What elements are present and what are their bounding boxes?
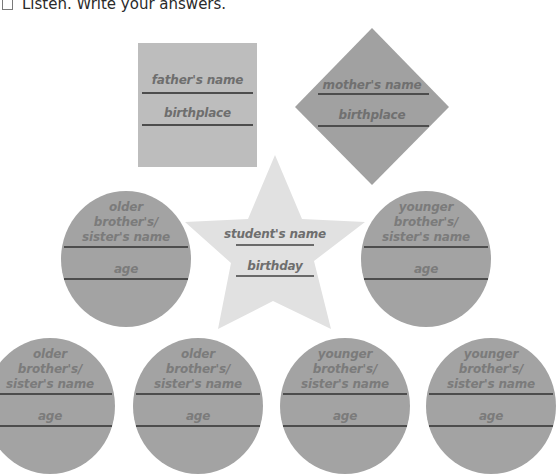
sibling-age-answer-line[interactable] (283, 425, 407, 427)
student-name-answer-line[interactable] (236, 244, 314, 246)
sibling-label-line3: sister's name (361, 230, 491, 245)
sibling-label-line3: sister's name (426, 377, 556, 392)
mother-birthplace-label: birthplace (295, 108, 449, 122)
sibling-label-line3: sister's name (133, 377, 263, 392)
student-name-label: student's name (185, 227, 365, 241)
sibling-label-line2: brother's/ (61, 215, 191, 230)
father-birthplace-label: birthplace (138, 106, 257, 120)
sibling-age-answer-line[interactable] (364, 278, 488, 280)
sibling-age-label: age (0, 409, 115, 424)
sibling-label-line3: sister's name (280, 377, 410, 392)
sibling-name-answer-line[interactable] (136, 393, 260, 395)
sibling-age-answer-line[interactable] (136, 425, 260, 427)
father-card: father's name birthplace (138, 43, 257, 167)
mother-name-answer-line[interactable] (318, 93, 429, 95)
sibling-label-line1: older (133, 347, 263, 362)
sibling-name-answer-line[interactable] (283, 393, 407, 395)
sibling-label-line1: younger (426, 347, 556, 362)
father-name-label: father's name (138, 73, 257, 87)
sibling-age-label: age (426, 409, 556, 424)
sibling-label-line1: older (0, 347, 115, 362)
sibling-age-answer-line[interactable] (64, 278, 188, 280)
sibling-label-line2: brother's/ (426, 362, 556, 377)
sibling-card-older-1: older brother's/ sister's name age (61, 191, 191, 327)
sibling-age-label: age (280, 409, 410, 424)
instruction-text: Listen. Write your answers. (22, 0, 226, 13)
student-birthday-label: birthday (185, 259, 365, 273)
sibling-card-younger-1: younger brother's/ sister's name age (361, 191, 491, 327)
sibling-card-younger-3: younger brother's/ sister's name age (426, 338, 556, 474)
sibling-label-line2: brother's/ (133, 362, 263, 377)
sibling-name-answer-line[interactable] (429, 393, 553, 395)
student-birthday-answer-line[interactable] (236, 275, 314, 277)
sibling-label-line3: sister's name (0, 377, 115, 392)
sibling-age-label: age (361, 262, 491, 277)
sibling-age-answer-line[interactable] (0, 425, 112, 427)
sibling-label-line2: brother's/ (0, 362, 115, 377)
sibling-age-label: age (61, 262, 191, 277)
sibling-card-older-3: older brother's/ sister's name age (133, 338, 263, 474)
sibling-age-answer-line[interactable] (429, 425, 553, 427)
sibling-label-line1: younger (361, 200, 491, 215)
mother-name-label: mother's name (295, 78, 449, 92)
father-birthplace-answer-line[interactable] (142, 124, 253, 126)
father-name-answer-line[interactable] (142, 92, 253, 94)
sibling-card-older-2: older brother's/ sister's name age (0, 338, 115, 474)
sibling-label-line1: older (61, 200, 191, 215)
sibling-age-label: age (133, 409, 263, 424)
sibling-name-answer-line[interactable] (64, 246, 188, 248)
checkbox-icon[interactable] (2, 0, 13, 10)
mother-birthplace-answer-line[interactable] (318, 125, 429, 127)
sibling-label-line2: brother's/ (361, 215, 491, 230)
star-shape (185, 155, 365, 331)
sibling-name-answer-line[interactable] (364, 246, 488, 248)
sibling-label-line3: sister's name (61, 230, 191, 245)
sibling-name-answer-line[interactable] (0, 393, 112, 395)
sibling-label-line1: younger (280, 347, 410, 362)
sibling-card-younger-2: younger brother's/ sister's name age (280, 338, 410, 474)
student-card: student's name birthday (185, 155, 365, 331)
instruction: Listen. Write your answers. (2, 0, 226, 14)
sibling-label-line2: brother's/ (280, 362, 410, 377)
